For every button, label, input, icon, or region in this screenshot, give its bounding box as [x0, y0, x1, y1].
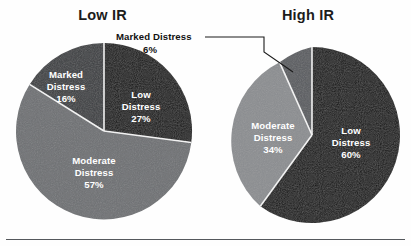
pie-chart-high-ir: Low Distress 60% Moderate Distress 34% M…	[211, 39, 411, 231]
svg-text:Moderate: Moderate	[72, 155, 115, 166]
svg-text:Moderate: Moderate	[251, 120, 294, 131]
pie-chart-low-ir: Low Distress 27% Moderate Distress 57% M…	[8, 36, 200, 226]
svg-text:Distress: Distress	[332, 137, 371, 148]
svg-text:Distress: Distress	[254, 132, 293, 143]
figure-panel: Low IR	[0, 0, 411, 246]
svg-text:Distress: Distress	[122, 101, 161, 112]
svg-text:27%: 27%	[131, 113, 151, 124]
svg-text:16%: 16%	[56, 93, 76, 104]
svg-text:60%: 60%	[341, 149, 361, 160]
chart-title-high-ir: High IR	[205, 7, 411, 23]
svg-text:Distress: Distress	[75, 167, 114, 178]
svg-text:Low: Low	[131, 89, 151, 100]
callout-value-marked-distress: 6%	[143, 44, 157, 55]
svg-text:Low: Low	[341, 125, 361, 136]
chart-panel-high-ir: High IR	[205, 0, 411, 246]
svg-text:Distress: Distress	[47, 81, 86, 92]
callout-label-marked-distress: Marked Distress	[116, 31, 192, 42]
svg-text:34%: 34%	[263, 144, 283, 155]
bottom-divider-rule	[6, 239, 405, 240]
chart-title-low-ir: Low IR	[0, 7, 205, 23]
svg-text:57%: 57%	[84, 179, 104, 190]
svg-text:Marked: Marked	[49, 69, 83, 80]
